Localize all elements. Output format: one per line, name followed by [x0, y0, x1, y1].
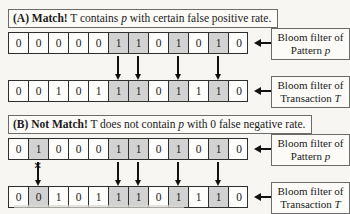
- mismatch-cross-icon: ✕: [34, 161, 42, 171]
- down-arrow-icon: [177, 56, 179, 74]
- bit-cell: 1: [89, 187, 109, 207]
- row-label-line2-italic: p: [325, 44, 331, 56]
- row-label-line2: Transaction T: [280, 92, 340, 106]
- panel-title: (B) Not Match! T does not contain p with…: [8, 115, 312, 134]
- bit-cell: 0: [29, 33, 49, 53]
- bit-cell: 0: [229, 81, 249, 101]
- down-arrow-icon: [117, 56, 119, 74]
- bit-cell: 1: [129, 139, 149, 159]
- bit-cell: 0: [189, 139, 209, 159]
- row-label-line2: Pattern p: [291, 44, 330, 58]
- row-label-line1: Bloom filter of: [278, 137, 344, 151]
- bit-cell: 0: [49, 33, 69, 53]
- bit-cell: 0: [69, 81, 89, 101]
- bit-cell: 1: [129, 33, 149, 53]
- bit-cell: 1: [89, 81, 109, 101]
- title-segment: with certain false positive rate.: [127, 12, 271, 24]
- bit-cell: 0: [9, 139, 29, 159]
- row-label-line2: Transaction T: [280, 198, 340, 212]
- down-arrow-icon: [217, 162, 219, 180]
- row-label-line1: Bloom filter of: [278, 79, 344, 93]
- bit-cell: 0: [9, 81, 29, 101]
- bit-array-pattern: 010001101010: [8, 138, 248, 160]
- bit-cell: 1: [169, 33, 189, 53]
- bit-cell: 0: [49, 139, 69, 159]
- row-label-line2: Pattern p: [291, 150, 330, 164]
- bit-cell: 0: [29, 81, 49, 101]
- row-label-line2-text: Transaction: [280, 92, 334, 104]
- bit-cell: 0: [149, 33, 169, 53]
- bit-cell: 0: [149, 139, 169, 159]
- bit-cell: 1: [109, 33, 129, 53]
- bit-cell: 1: [109, 139, 129, 159]
- bit-cell: 0: [69, 33, 89, 53]
- bit-cell: 1: [169, 81, 189, 101]
- hash-mapping-arrows: ✕: [8, 162, 248, 186]
- bit-cell: 1: [109, 81, 129, 101]
- row-label-transaction: Bloom filter ofTransaction T: [271, 182, 350, 214]
- down-arrow-icon: [217, 56, 219, 74]
- left-arrow-icon: [261, 196, 271, 198]
- bit-cell: 1: [209, 187, 229, 207]
- panel-match: (A) Match! T contains p with certain fal…: [0, 9, 345, 104]
- bit-cell: 0: [189, 33, 209, 53]
- title-segment: T contains: [68, 12, 122, 24]
- left-arrow-icon: [261, 90, 271, 92]
- down-arrow-icon: [137, 162, 139, 180]
- bloom-filter-row-pattern: 010001101010Bloom filter ofPattern p: [8, 138, 345, 162]
- bit-cell: 0: [229, 139, 249, 159]
- row-label-line2-italic: p: [325, 150, 331, 162]
- title-segment: T does not contain: [88, 118, 179, 130]
- bit-cell: 1: [169, 187, 189, 207]
- scan-smudge: [14, 205, 184, 208]
- bit-cell: 1: [209, 139, 229, 159]
- panel-not-match: (B) Not Match! T does not contain p with…: [0, 115, 345, 210]
- bit-cell: 1: [29, 139, 49, 159]
- bit-cell: 1: [189, 81, 209, 101]
- bit-cell: 0: [149, 81, 169, 101]
- bit-cell: 1: [209, 81, 229, 101]
- row-label-line1: Bloom filter of: [278, 185, 344, 199]
- bit-cell: 0: [89, 139, 109, 159]
- left-arrow-icon: [261, 148, 271, 150]
- bit-cell: 1: [209, 33, 229, 53]
- hash-mapping-arrows: [8, 56, 248, 80]
- bloom-filter-row-transaction: 001011101110Bloom filter ofTransaction T: [8, 80, 345, 104]
- row-label-line2-text: Pattern: [291, 150, 325, 162]
- left-arrow-icon: [261, 42, 271, 44]
- bit-array-pattern: 000001101010: [8, 32, 248, 54]
- down-arrow-icon: [177, 162, 179, 180]
- bit-cell: 0: [29, 187, 49, 207]
- bit-cell: 0: [9, 187, 29, 207]
- bit-cell: 1: [129, 187, 149, 207]
- bloom-filter-row-pattern: 000001101010Bloom filter ofPattern p: [8, 32, 345, 56]
- bit-cell: 0: [229, 187, 249, 207]
- bit-cell: 0: [229, 33, 249, 53]
- down-arrow-icon: ✕: [37, 162, 39, 180]
- bit-cell: 1: [169, 139, 189, 159]
- bit-cell: 0: [89, 33, 109, 53]
- row-label-pattern: Bloom filter ofPattern p: [271, 134, 350, 166]
- bit-cell: 1: [129, 81, 149, 101]
- panel-title: (A) Match! T contains p with certain fal…: [8, 9, 278, 28]
- down-arrow-icon: [117, 162, 119, 180]
- row-label-transaction: Bloom filter ofTransaction T: [271, 76, 350, 108]
- row-label-line2-italic: T: [335, 92, 341, 104]
- bit-array-transaction: 001011101110: [8, 80, 248, 102]
- bit-cell: 1: [189, 187, 209, 207]
- bit-cell: 1: [49, 187, 69, 207]
- title-segment: with 0 false negative rate.: [184, 118, 305, 130]
- title-segment: (A) Match!: [13, 12, 68, 24]
- bit-cell: 1: [109, 187, 129, 207]
- row-label-line2-text: Pattern: [291, 44, 325, 56]
- row-label-pattern: Bloom filter ofPattern p: [271, 28, 350, 60]
- row-label-line2-text: Transaction: [280, 198, 334, 210]
- bit-cell: 1: [49, 81, 69, 101]
- row-label-line1: Bloom filter of: [278, 31, 344, 45]
- bit-cell: 0: [9, 33, 29, 53]
- bit-cell: 0: [69, 187, 89, 207]
- row-label-line2-italic: T: [335, 198, 341, 210]
- title-segment: (B) Not Match!: [13, 118, 88, 130]
- bit-cell: 0: [69, 139, 89, 159]
